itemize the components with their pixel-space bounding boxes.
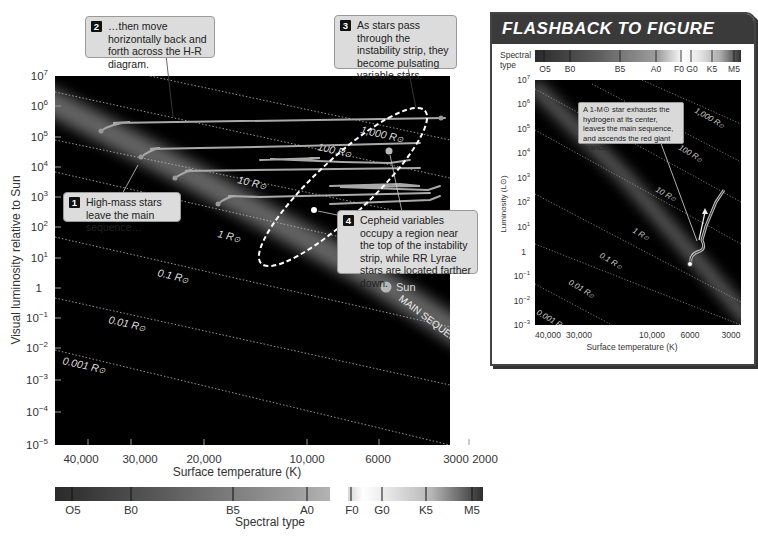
callout-3: 3 As stars pass through the instability … — [334, 15, 457, 69]
svg-text:103: 103 — [31, 189, 49, 203]
svg-text:104: 104 — [31, 159, 49, 173]
svg-text:30,000: 30,000 — [122, 453, 157, 465]
svg-text:101: 101 — [517, 221, 530, 232]
svg-text:107: 107 — [31, 68, 49, 82]
svg-text:F0: F0 — [674, 64, 684, 74]
svg-text:1: 1 — [521, 247, 526, 257]
svg-text:10−1: 10−1 — [26, 310, 48, 324]
svg-text:10−1: 10−1 — [514, 270, 531, 281]
svg-text:6000: 6000 — [681, 330, 700, 340]
svg-text:102: 102 — [31, 219, 49, 233]
svg-text:B0: B0 — [565, 64, 576, 74]
spectral-type-title: Spectral type — [235, 515, 305, 529]
svg-text:103: 103 — [517, 172, 530, 183]
svg-text:40,000: 40,000 — [535, 330, 561, 340]
callout-4: 4 Cepheid variables occupy a region near… — [337, 210, 478, 274]
svg-text:40,000: 40,000 — [63, 453, 98, 465]
inset-title: FLASHBACK TO FIGURE 16.4 — [492, 14, 754, 44]
cepheid-point — [386, 148, 393, 155]
svg-text:O5: O5 — [539, 64, 551, 74]
sun-label: Sun — [396, 281, 416, 293]
y-axis-labels: 107 106 105 104 103 102 101 1 10−1 10−2 … — [26, 68, 48, 451]
svg-text:107: 107 — [517, 74, 530, 85]
x-axis-title: Surface temperature (K) — [173, 465, 302, 479]
svg-text:3000: 3000 — [443, 453, 469, 465]
inset-y-labels: 107 106 105 104 103 102 101 1 10−1 10−2 … — [514, 74, 531, 330]
svg-text:10−3: 10−3 — [26, 372, 48, 386]
svg-text:F0: F0 — [345, 504, 358, 516]
flashback-inset: FLASHBACK TO FIGURE 16.4 Spectral type O… — [490, 12, 756, 366]
svg-text:10−4: 10−4 — [26, 404, 48, 418]
svg-text:1: 1 — [36, 282, 42, 294]
svg-text:2000: 2000 — [472, 453, 498, 465]
svg-text:30,000: 30,000 — [566, 330, 592, 340]
x-axis-labels: 40,000 30,000 20,000 10,000 6000 3000 20… — [63, 453, 497, 465]
y-axis-title: Visual luminosity relative to Sun — [9, 175, 23, 344]
inset-spectral-bar — [535, 50, 741, 62]
svg-text:B0: B0 — [124, 504, 138, 516]
svg-text:105: 105 — [517, 123, 530, 134]
inset-spectral-label: Spectral — [500, 50, 531, 60]
svg-text:106: 106 — [31, 98, 49, 112]
svg-text:104: 104 — [517, 147, 530, 158]
svg-text:20,000: 20,000 — [186, 453, 221, 465]
inset-hr-diagram: Spectral type O5 B0 B5 A0 F0 G0 K5 M5 — [492, 44, 754, 364]
svg-text:M5: M5 — [728, 64, 740, 74]
svg-text:G0: G0 — [374, 504, 389, 516]
svg-text:B5: B5 — [615, 64, 626, 74]
svg-text:10,000: 10,000 — [289, 453, 324, 465]
rr-lyrae-point — [311, 207, 317, 213]
spectral-type-bar — [55, 487, 483, 501]
svg-text:101: 101 — [31, 250, 49, 264]
svg-text:10,000: 10,000 — [639, 330, 665, 340]
svg-text:type: type — [500, 60, 516, 70]
svg-text:10−2: 10−2 — [514, 295, 531, 306]
svg-text:G0: G0 — [686, 64, 698, 74]
inset-callout: A 1-M⊙ star exhausts the hydrogen at its… — [578, 102, 684, 144]
svg-text:M5: M5 — [464, 504, 480, 516]
svg-text:O5: O5 — [65, 504, 80, 516]
svg-text:106: 106 — [517, 98, 530, 109]
inset-y-axis-title: Luminosity (L⊙) — [499, 175, 508, 233]
svg-text:10−3: 10−3 — [514, 319, 531, 330]
svg-text:105: 105 — [31, 129, 49, 143]
svg-text:3000: 3000 — [722, 330, 741, 340]
svg-text:A0: A0 — [651, 64, 662, 74]
svg-text:6000: 6000 — [365, 453, 391, 465]
callout-2: 2 …then move horizontally back and forth… — [85, 16, 215, 58]
svg-text:K5: K5 — [707, 64, 718, 74]
inset-x-labels: 40,000 30,000 10,000 6000 3000 — [535, 330, 741, 340]
svg-text:10−2: 10−2 — [26, 340, 48, 354]
svg-text:K5: K5 — [419, 504, 433, 516]
callout-1: 1 High-mass stars leave the main sequenc… — [63, 192, 181, 222]
inset-x-axis-title: Surface temperature (K) — [586, 342, 677, 352]
svg-text:102: 102 — [517, 196, 530, 207]
svg-text:10−5: 10−5 — [26, 437, 48, 451]
